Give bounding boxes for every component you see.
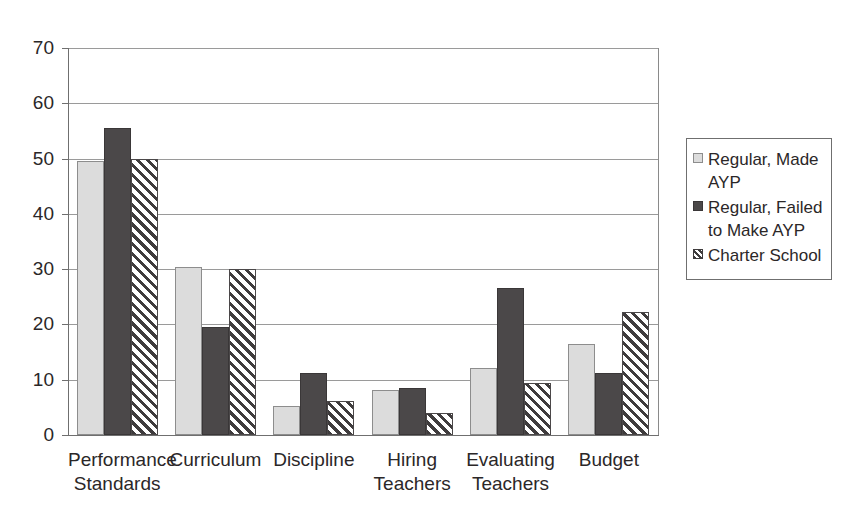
category-label-line: Discipline [265,448,363,472]
bar [273,406,300,435]
bar [568,344,595,435]
y-axis-label-0: 0 [0,425,54,444]
category-label: Budget [560,448,658,472]
light-gray-color-icon [693,153,703,163]
bar [77,161,104,435]
bar [595,373,622,435]
y-axis-line [68,48,69,436]
legend-entry[interactable]: Regular, Failedto Make AYP [693,196,823,242]
category-label-line: Evaluating [461,448,559,472]
category-label-line: Performance [68,448,166,472]
legend-entry-label-line: Regular, Made [708,148,819,171]
category-label-line: Standards [68,472,166,496]
x-axis-line [68,435,659,436]
category-label: EvaluatingTeachers [461,448,559,496]
bar [229,269,256,435]
category-label-line: Teachers [363,472,461,496]
bar-group [470,48,551,435]
category-label-line: Hiring [363,448,461,472]
category-label-line: Budget [560,448,658,472]
bar [426,413,453,435]
legend-entry[interactable]: Charter School [693,244,823,267]
y-axis-label-10: 10 [0,370,54,389]
category-label: HiringTeachers [363,448,461,496]
legend-entry[interactable]: Regular, MadeAYP [693,148,823,194]
y-axis-label-40: 40 [0,204,54,223]
bar-group [77,48,158,435]
bar [622,312,649,435]
y-axis-label-50: 50 [0,149,54,168]
y-axis-label-60: 60 [0,93,54,112]
category-label: PerformanceStandards [68,448,166,496]
plot-area [68,48,658,435]
bar [497,288,524,435]
bar [104,128,131,435]
category-label: Curriculum [166,448,264,472]
legend-entry-label: Regular, Failedto Make AYP [708,196,822,242]
y-axis-label-20: 20 [0,314,54,333]
bar-chart: 010203040506070 PerformanceStandardsCurr… [0,0,846,526]
category-label: Discipline [265,448,363,472]
bar [327,401,354,435]
bar [131,159,158,435]
legend-entry-label: Regular, MadeAYP [708,148,819,194]
bar [470,368,497,435]
category-label-line: Curriculum [166,448,264,472]
legend-entry-label: Charter School [708,244,821,267]
bar [524,383,551,435]
legend-entry-label-line: AYP [708,171,819,194]
legend-entry-label-line: Charter School [708,244,821,267]
bar [300,373,327,435]
bar-group [372,48,453,435]
chart-legend: Regular, MadeAYPRegular, Failedto Make A… [686,138,832,280]
legend-entry-label-line: to Make AYP [708,219,822,242]
hatched-color-icon [693,249,703,259]
y-axis-label-70: 70 [0,38,54,57]
dark-gray-color-icon [693,201,703,211]
bar-group [568,48,649,435]
bar-group [273,48,354,435]
category-label-line: Teachers [461,472,559,496]
legend-entry-label-line: Regular, Failed [708,196,822,219]
bar [202,327,229,435]
bar [175,267,202,435]
plot-right-border [658,48,659,435]
y-axis-label-30: 30 [0,259,54,278]
bar [399,388,426,435]
bar [372,390,399,435]
bar-group [175,48,256,435]
